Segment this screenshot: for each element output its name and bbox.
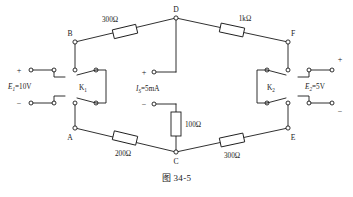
- switch-k1-pole-top-terminal[interactable]: [73, 68, 77, 72]
- source-e2-plus-outer-terminal[interactable]: [330, 68, 334, 72]
- resistor-200-ohm-ac-group: [112, 131, 137, 145]
- resistor-1k-ohm-df-label: 1kΩ: [239, 15, 252, 23]
- resistor-200-ohm-ac: [112, 131, 137, 145]
- node-dot-d: [174, 16, 178, 20]
- source-e1-minus-outer-terminal[interactable]: [29, 101, 33, 105]
- wire-e1-plus-elbow: [54, 72, 65, 77]
- switch-k1-group[interactable]: K1: [73, 68, 106, 105]
- source-e1-label-value: =10V: [15, 83, 32, 91]
- source-e2-minus-sign: −: [338, 107, 343, 116]
- resistor-1k-ohm-df: [219, 23, 244, 37]
- switch-k1-pole-bottom-terminal[interactable]: [73, 101, 77, 105]
- node-dot-b: [73, 40, 77, 44]
- resistor-200-ohm-ac-label: 200Ω: [115, 150, 131, 158]
- source-e2-label-value: =5V: [312, 83, 326, 91]
- source-is-plus-terminal[interactable]: [152, 70, 156, 74]
- switch-k2-label-sub: 2: [272, 87, 275, 93]
- resistor-1k-ohm-df-group: [219, 23, 244, 37]
- node-label-f: F: [291, 29, 295, 38]
- source-e1-plus-sign: +: [17, 66, 22, 75]
- node-dot-f: [286, 40, 290, 44]
- source-e1-label: E1=10V: [7, 83, 32, 92]
- wire-e1-minus-elbow: [54, 96, 65, 101]
- node-dot-c: [174, 150, 178, 154]
- resistor-100-ohm-label: 100Ω: [185, 121, 201, 129]
- switch-k2-bridge-wire: [257, 70, 267, 103]
- switch-k2-group[interactable]: K2: [257, 68, 290, 105]
- figure-circuit-34-5: 100Ω 300Ω 1kΩ 200Ω 300Ω: [0, 0, 353, 197]
- source-e2-plus-inner-terminal[interactable]: [307, 68, 311, 72]
- switch-k2-label: K2: [267, 83, 275, 93]
- source-e1-group: + − E1=10V: [7, 66, 65, 108]
- node-dot-a: [73, 126, 77, 130]
- source-e2-minus-inner-terminal[interactable]: [307, 101, 311, 105]
- wire-e2-plus-elbow: [298, 72, 309, 77]
- switch-k2-pole-top-terminal[interactable]: [286, 68, 290, 72]
- source-is-label-value: =5mA: [141, 85, 160, 93]
- wire-group-diamond: [75, 18, 288, 152]
- switch-k1-label: K1: [79, 83, 87, 93]
- resistor-300-ohm-bd-label: 300Ω: [102, 16, 118, 24]
- source-e2-plus-sign: +: [338, 55, 343, 64]
- source-is-label: IS=5mA: [135, 85, 160, 94]
- resistor-300-ohm-bd: [112, 24, 137, 38]
- node-label-a: A: [67, 133, 73, 142]
- switch-k2-blade-bottom[interactable]: [267, 98, 286, 103]
- switch-k1-label-sub: 1: [84, 87, 87, 93]
- wire-e2-minus-elbow: [298, 96, 309, 101]
- source-e1-minus-inner-terminal[interactable]: [52, 101, 56, 105]
- source-e2-group: + − E2=5V: [298, 55, 343, 116]
- node-dot-group: [73, 16, 290, 154]
- source-e2-minus-outer-terminal[interactable]: [330, 101, 334, 105]
- source-e1-plus-inner-terminal[interactable]: [52, 68, 56, 72]
- source-e1-minus-sign: −: [17, 99, 22, 108]
- figure-caption: 图 34-5: [0, 171, 353, 184]
- resistor-300-ohm-ce-label: 300Ω: [224, 152, 240, 160]
- node-label-c: C: [173, 157, 178, 166]
- source-is-minus-terminal[interactable]: [152, 102, 156, 106]
- switch-k1-bridge-wire: [96, 70, 106, 103]
- source-e1-plus-outer-terminal[interactable]: [29, 68, 33, 72]
- switch-k1-blade-bottom[interactable]: [77, 98, 96, 103]
- node-label-e: E: [291, 133, 296, 142]
- node-dot-e: [286, 126, 290, 130]
- switch-k1-blade-top[interactable]: [77, 70, 96, 75]
- switch-k2-pole-bottom-terminal[interactable]: [286, 101, 290, 105]
- source-is-minus-sign: −: [142, 100, 147, 109]
- resistor-100-ohm: [171, 112, 181, 136]
- resistor-300-ohm-ce-group: [219, 133, 244, 147]
- source-is-plus-sign: +: [142, 68, 147, 77]
- resistor-300-ohm-bd-group: [112, 24, 137, 38]
- switch-k2-blade-top[interactable]: [267, 70, 286, 75]
- source-is-group: + − IS=5mA: [135, 68, 160, 109]
- node-label-b: B: [67, 29, 72, 38]
- node-label-d: D: [173, 5, 179, 14]
- node-label-group: B A D C F E: [67, 5, 295, 166]
- resistor-300-ohm-ce: [219, 133, 244, 147]
- circuit-schematic: 100Ω 300Ω 1kΩ 200Ω 300Ω: [0, 0, 353, 197]
- source-e2-label: E2=5V: [304, 83, 326, 92]
